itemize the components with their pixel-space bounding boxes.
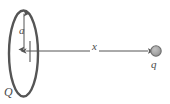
physics-diagram-charged-ring: a x q Q: [0, 0, 170, 104]
diagram-canvas: [0, 0, 170, 104]
point-charge-sphere: [151, 46, 161, 56]
ring-radius-label: a: [19, 25, 25, 36]
axial-distance-label: x: [90, 41, 99, 52]
point-charge-label: q: [151, 59, 157, 70]
ring-charge-label: Q: [4, 86, 13, 98]
